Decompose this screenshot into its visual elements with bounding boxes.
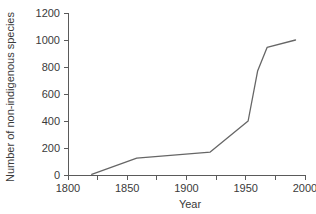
- x-axis-title: Year: [179, 198, 202, 210]
- x-axis-ticks: [68, 175, 305, 180]
- x-tick-label: 1850: [115, 182, 139, 194]
- y-axis-ticks: [64, 13, 68, 175]
- x-axis-tick-labels: 18001850190019502000: [56, 182, 316, 194]
- y-axis-tick-labels: 020040060080010001200: [36, 7, 60, 181]
- y-tick-label: 0: [54, 169, 60, 181]
- y-tick-label: 200: [42, 142, 60, 154]
- chart-figure: 020040060080010001200 180018501900195020…: [0, 0, 316, 214]
- x-tick-label: 1950: [234, 182, 258, 194]
- x-tick-label: 2000: [293, 182, 316, 194]
- y-tick-label: 1000: [36, 34, 60, 46]
- y-axis-title: Number of non-indigenous species: [4, 12, 16, 182]
- x-tick-label: 1900: [174, 182, 198, 194]
- line-chart: 020040060080010001200 180018501900195020…: [0, 0, 316, 214]
- y-tick-label: 800: [42, 61, 60, 73]
- y-tick-label: 600: [42, 88, 60, 100]
- y-tick-label: 1200: [36, 7, 60, 19]
- x-tick-label: 1800: [56, 182, 80, 194]
- y-tick-label: 400: [42, 115, 60, 127]
- plot-area: 020040060080010001200 180018501900195020…: [4, 7, 316, 210]
- data-series-line: [92, 40, 296, 174]
